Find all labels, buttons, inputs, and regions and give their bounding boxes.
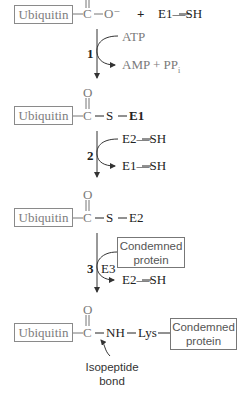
carbon-row3: C — [83, 210, 92, 226]
protein-box-line1: Condemned — [172, 320, 235, 334]
oxygen-row2: O — [83, 85, 92, 101]
step1-number: 1 — [87, 46, 94, 62]
e1-row2: E1 — [129, 108, 144, 124]
carbon-row1: C — [83, 6, 92, 22]
isopeptide-bond-label: Isopeptide bond — [85, 360, 139, 388]
sulfur-row3: S — [106, 210, 113, 226]
ubiquitin-box-row3: Ubiquitin — [14, 208, 73, 227]
step2-output: E1—SH — [122, 158, 166, 174]
condemned-protein-input-box: Condemned protein — [117, 237, 185, 268]
carbon-row2: C — [83, 108, 92, 124]
condemned-protein-product-box: Condemned protein — [170, 318, 237, 350]
isopeptide-pointer — [101, 340, 110, 356]
e2-row3: E2 — [129, 210, 143, 226]
step1-input: ATP — [122, 29, 145, 45]
carbon-row4: C — [83, 325, 92, 341]
step1-output: AMP + PPi — [122, 57, 180, 75]
ubiquitin-box-row1: Ubiquitin — [14, 5, 73, 24]
step1-arrow — [97, 29, 118, 78]
step1-output-subscript: i — [178, 66, 180, 75]
lysine-row4: Lys — [138, 325, 157, 341]
ubiquitin-box-row4: Ubiquitin — [14, 323, 73, 342]
oxygen-row4: O — [83, 302, 92, 318]
oxygen-row3: O — [83, 187, 92, 203]
step1-output-text: AMP + PP — [122, 57, 178, 72]
step3-number: 3 — [87, 261, 94, 277]
ubiquitin-box-row2: Ubiquitin — [14, 106, 73, 125]
isopeptide-line1: Isopeptide — [85, 360, 139, 374]
amine-row4: NH — [106, 325, 125, 341]
step2-input: E2—SH — [122, 131, 166, 147]
ubiquitin-label: Ubiquitin — [19, 7, 69, 23]
e1-sh-reactant: E1—SH — [158, 6, 202, 22]
ubiquitin-label: Ubiquitin — [19, 210, 69, 226]
step3-output: E2—SH — [122, 272, 166, 288]
protein-box-line2: protein — [172, 334, 235, 348]
sulfur-row2: S — [106, 108, 113, 124]
ubiquitin-label: Ubiquitin — [19, 108, 69, 124]
oxide-row1: O⁻ — [104, 6, 120, 22]
isopeptide-line2: bond — [85, 374, 139, 388]
step2-arrow — [97, 131, 118, 177]
e3-label: E3 — [101, 261, 115, 277]
step2-number: 2 — [87, 148, 94, 164]
plus-sign: + — [137, 6, 144, 22]
protein-box-line1: Condemned — [120, 239, 183, 253]
ubiquitin-label: Ubiquitin — [19, 325, 69, 341]
protein-box-line2: protein — [120, 253, 183, 267]
